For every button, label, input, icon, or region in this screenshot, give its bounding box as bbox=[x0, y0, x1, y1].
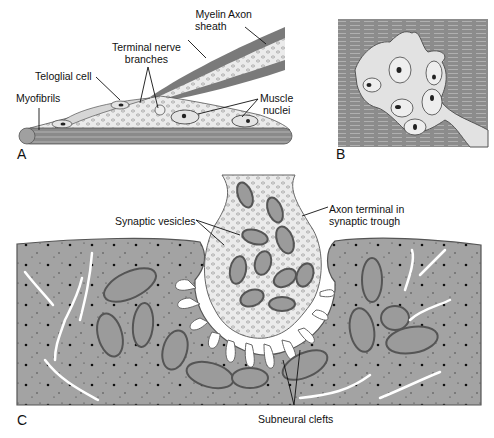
panel-letter-a: A bbox=[17, 146, 26, 162]
label-line: sheath bbox=[195, 20, 227, 32]
label-line: synaptic trough bbox=[329, 215, 404, 227]
panel-letter-c: C bbox=[17, 412, 27, 428]
panel-c-illustration bbox=[17, 175, 481, 405]
label-muscle-nuclei: Muscle nuclei bbox=[260, 92, 293, 116]
label-line: Terminal nerve bbox=[112, 41, 181, 53]
label-subneural-clefts: Subneural clefts bbox=[258, 413, 333, 425]
panel-letter-b: B bbox=[336, 146, 345, 162]
label-synaptic-vesicles: Synaptic vesicles bbox=[115, 215, 196, 227]
label-axon-terminal: Axon terminal in synaptic trough bbox=[329, 203, 404, 227]
label-axon: Axon bbox=[228, 8, 252, 20]
label-line: nuclei bbox=[260, 104, 293, 116]
panel-b-illustration bbox=[338, 19, 488, 147]
label-line: Axon terminal in bbox=[329, 203, 404, 215]
label-line: Myelin bbox=[195, 8, 227, 20]
label-line: branches bbox=[112, 53, 181, 65]
label-myofibrils: Myofibrils bbox=[16, 92, 60, 104]
label-line: Muscle bbox=[260, 92, 293, 104]
label-teloglial-cell: Teloglial cell bbox=[35, 70, 92, 82]
diagram-canvas bbox=[0, 0, 494, 438]
label-terminal-nerve-branches: Terminal nerve branches bbox=[112, 41, 181, 65]
label-myelin-sheath: Myelin sheath bbox=[195, 8, 227, 32]
